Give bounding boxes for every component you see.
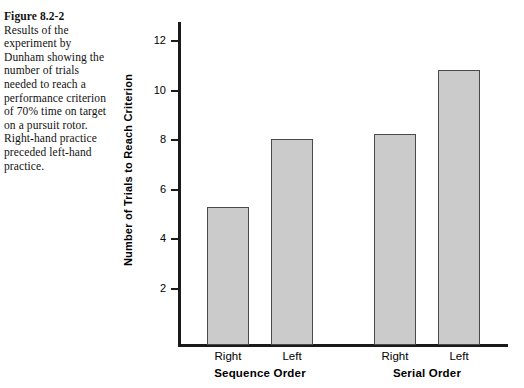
figure-caption: Figure 8.2-2 Results of the experiment b… [4,10,124,173]
figure-page: Figure 8.2-2 Results of the experiment b… [0,0,524,388]
y-tick-2 [171,288,181,290]
group-label-serial-order: Serial Order [352,367,502,379]
group-label-sequence-order: Sequence Order [185,367,335,379]
y-tick-12 [171,40,181,42]
y-tick-label-12: 12 [140,35,166,46]
y-tick-6 [171,189,181,191]
y-tick-4 [171,238,181,240]
y-tick-label-4: 4 [140,233,166,244]
y-axis-line [178,22,181,347]
x-label-sequence-left: Left [257,350,327,362]
y-tick-10 [171,90,181,92]
figure-caption-title: Figure 8.2-2 [4,10,124,24]
figure-caption-body: Results of the experiment by Dunham show… [4,24,108,174]
y-tick-8 [171,139,181,141]
y-tick-label-6: 6 [140,184,166,195]
y-tick-label-8: 8 [140,134,166,145]
bar-serial-left [438,70,480,345]
bar-serial-right [374,134,416,345]
x-label-sequence-right: Right [193,350,263,362]
y-tick-label-10: 10 [140,85,166,96]
x-label-serial-left: Left [424,350,494,362]
y-axis-title: Number of Trials to Reach Criterion [122,60,142,280]
bar-sequence-right [207,207,249,345]
x-label-serial-right: Right [360,350,430,362]
bar-sequence-left [271,139,313,345]
y-tick-label-2: 2 [140,283,166,294]
bar-chart: Number of Trials to Reach Criterion 2 4 … [130,0,524,388]
